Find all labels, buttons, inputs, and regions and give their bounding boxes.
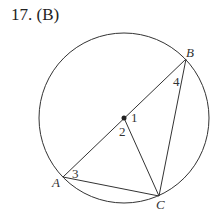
angle-label-2: 2 — [119, 124, 126, 139]
angle-label-3: 3 — [72, 166, 79, 181]
point-label-c: C — [156, 197, 165, 211]
point-label-b: B — [186, 45, 194, 60]
angle-label-1: 1 — [131, 110, 138, 125]
angle-label-4: 4 — [173, 74, 180, 89]
point-label-a: A — [51, 175, 60, 190]
radius-oc — [124, 118, 159, 196]
center-point — [122, 116, 127, 121]
geometry-diagram: A B C 1 2 3 4 — [0, 0, 224, 211]
